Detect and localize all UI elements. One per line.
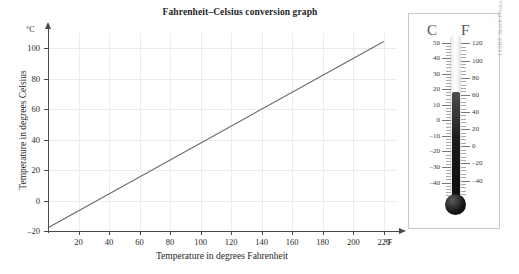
thermometer-minor-tick <box>461 71 466 72</box>
x-tick-label: 160 <box>286 237 299 247</box>
x-tick-label: 180 <box>316 237 329 247</box>
y-tick <box>44 48 48 49</box>
thermometer-minor-tick <box>461 153 466 154</box>
thermometer-minor-tick <box>446 139 451 140</box>
x-tick <box>140 231 141 235</box>
thermometer-minor-tick <box>461 133 466 134</box>
thermometer-scale-label: 60 <box>472 91 490 99</box>
thermometer-minor-tick <box>461 174 466 175</box>
thermometer-minor-tick <box>461 81 466 82</box>
y-axis-unit-label: °C <box>26 25 35 34</box>
x-axis-title: Temperature in degrees Fahrenheit <box>48 251 396 261</box>
thermometer-minor-tick <box>446 77 451 78</box>
thermometer-scale-label: –40 <box>472 177 490 185</box>
thermometer-major-tick <box>442 167 451 168</box>
thermometer-minor-tick <box>446 92 451 93</box>
thermometer-minor-tick <box>446 158 451 159</box>
x-tick-label: 80 <box>166 237 175 247</box>
chart-area: °C °F 20406080100120140160180200220–2002… <box>0 0 410 274</box>
thermometer-minor-tick <box>461 191 466 192</box>
thermometer-major-tick <box>442 58 451 59</box>
thermometer-minor-tick <box>461 109 466 110</box>
x-tick <box>292 231 293 235</box>
thermometer-minor-tick <box>446 102 451 103</box>
y-tick <box>44 201 48 202</box>
x-tick-label: 140 <box>255 237 268 247</box>
thermometer-minor-tick <box>461 126 466 127</box>
thermometer-minor-tick <box>446 52 451 53</box>
thermometer-minor-tick <box>446 55 451 56</box>
y-axis <box>48 27 49 233</box>
y-tick <box>44 231 48 232</box>
thermometer-minor-tick <box>461 64 466 65</box>
thermometer-major-tick <box>461 181 470 182</box>
x-tick <box>79 231 80 235</box>
thermometer-minor-tick <box>461 85 466 86</box>
x-tick <box>323 231 324 235</box>
thermometer-minor-tick <box>446 130 451 131</box>
thermometer-minor-tick <box>461 184 466 185</box>
thermometer-minor-tick <box>446 155 451 156</box>
thermometer-celsius-scale: 50403020100–10–20–30–40 <box>429 34 451 202</box>
thermometer-minor-tick <box>446 61 451 62</box>
thermometer-illustration: C F 50403020100–10–20–30–40 120100806040… <box>413 18 495 224</box>
thermometer-scale-label: 30 <box>424 70 440 78</box>
thermometer-minor-tick <box>446 170 451 171</box>
y-tick <box>44 170 48 171</box>
thermometer-minor-tick <box>446 83 451 84</box>
thermometer-mercury-column <box>452 92 460 202</box>
thermometer-major-tick <box>461 95 470 96</box>
y-tick <box>44 79 48 80</box>
thermometer-major-tick <box>442 183 451 184</box>
y-tick <box>44 109 48 110</box>
thermometer-minor-tick <box>461 167 466 168</box>
thermometer-minor-tick <box>446 186 451 187</box>
x-tick-label: 200 <box>347 237 360 247</box>
thermometer-minor-tick <box>461 119 466 120</box>
thermometer-major-tick <box>461 129 470 130</box>
thermometer-scale-label: –20 <box>424 147 440 155</box>
plot-region <box>48 33 396 231</box>
thermometer-minor-tick <box>461 170 466 171</box>
thermometer-minor-tick <box>461 57 466 58</box>
thermometer-scale-label: 0 <box>472 142 490 150</box>
thermometer-minor-tick <box>446 179 451 180</box>
thermometer-minor-tick <box>461 105 466 106</box>
thermometer-minor-tick <box>446 173 451 174</box>
conversion-graph-figure: Fahrenheit–Celsius conversion graph °C °… <box>0 0 519 274</box>
thermometer-minor-tick <box>461 187 466 188</box>
x-tick <box>201 231 202 235</box>
thermometer-minor-tick <box>446 145 451 146</box>
thermometer-scale-label: 80 <box>472 74 490 82</box>
thermometer-minor-tick <box>446 71 451 72</box>
thermometer-minor-tick <box>461 150 466 151</box>
x-tick <box>109 231 110 235</box>
x-tick-label: 40 <box>105 237 114 247</box>
thermometer-scale-label: 20 <box>424 85 440 93</box>
x-tick <box>231 231 232 235</box>
x-tick <box>353 231 354 235</box>
thermometer-major-tick <box>442 120 451 121</box>
thermometer-scale-label: 40 <box>424 54 440 62</box>
thermometer-minor-tick <box>461 115 466 116</box>
thermometer-scale-label: –20 <box>472 159 490 167</box>
thermometer-minor-tick <box>461 98 466 99</box>
thermometer-minor-tick <box>446 127 451 128</box>
thermometer-major-tick <box>442 136 451 137</box>
x-tick-label: 20 <box>74 237 83 247</box>
thermometer-major-tick <box>461 163 470 164</box>
thermometer-minor-tick <box>461 143 466 144</box>
thermometer-minor-tick <box>446 67 451 68</box>
thermometer-minor-tick <box>446 114 451 115</box>
thermometer-major-tick <box>442 74 451 75</box>
thermometer-minor-tick <box>446 49 451 50</box>
thermometer-minor-tick <box>446 189 451 190</box>
thermometer-minor-tick <box>461 122 466 123</box>
thermometer-minor-tick <box>446 142 451 143</box>
y-axis-title: Temperature in degrees Celsius <box>18 45 28 215</box>
thermometer-minor-tick <box>446 192 451 193</box>
thermometer-minor-tick <box>461 102 466 103</box>
thermometer-scale-label: 10 <box>424 101 440 109</box>
data-series-line <box>48 33 396 231</box>
thermometer-minor-tick <box>461 157 466 158</box>
